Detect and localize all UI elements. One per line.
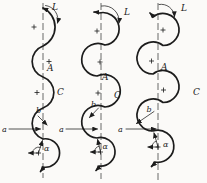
- angle-annotation: α: [29, 141, 51, 156]
- label-length: L: [123, 7, 130, 17]
- arc-center-plus-mark: [35, 90, 40, 95]
- radius-arrow: [38, 116, 47, 125]
- angle-arc: [95, 146, 100, 152]
- label-amplitude: A: [101, 72, 109, 82]
- meander-diagram: L A C b a α L A C b a: [0, 0, 207, 183]
- angle-radius-ray: [98, 140, 101, 152]
- panel-meander-loops: L A C b a α: [59, 3, 130, 179]
- panel-meander-shallow: L A C b a α: [2, 2, 64, 178]
- label-amplitude: A: [160, 62, 168, 72]
- label-radius: b: [91, 100, 96, 109]
- label-curve: C: [57, 87, 64, 97]
- label-curve: C: [114, 90, 121, 100]
- label-angle: α: [103, 142, 109, 151]
- arc-center-plus-mark: [161, 88, 166, 93]
- label-radius: b: [36, 106, 41, 115]
- arc-center-plus-mark: [98, 60, 103, 65]
- diagram-canvas: L A C b a α L A C b a: [0, 0, 207, 183]
- angle-annotation: α: [91, 140, 109, 155]
- angle-arc: [152, 141, 156, 147]
- label-width: a: [118, 125, 123, 134]
- arc-center-plus-mark: [149, 59, 154, 64]
- arc-center-plus-mark: [161, 28, 166, 33]
- angle-radius-ray: [154, 133, 158, 147]
- label-angle: α: [44, 144, 50, 153]
- arc-center-plus-mark: [32, 25, 37, 30]
- label-length: L: [180, 3, 187, 13]
- label-width: a: [59, 125, 64, 134]
- label-angle: α: [163, 140, 169, 149]
- radius-arrow: [90, 108, 99, 118]
- label-length: L: [51, 2, 58, 12]
- panel-meander-round-loops: L A C b a α: [118, 3, 200, 180]
- angle-annotation: α: [148, 133, 169, 150]
- radius-arrow: [137, 112, 155, 124]
- label-curve: C: [193, 87, 200, 97]
- label-radius: b: [147, 105, 152, 114]
- label-width: a: [2, 125, 7, 134]
- arc-center-plus-mark: [95, 29, 100, 34]
- label-amplitude: A: [46, 63, 54, 73]
- arc-center-plus-mark: [96, 91, 101, 96]
